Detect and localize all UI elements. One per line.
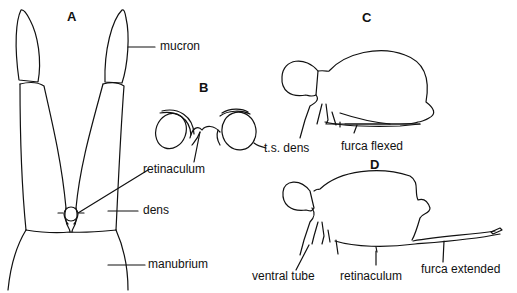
label-retinaculum-d: retinaculum: [340, 270, 402, 282]
springtail-furca-diagram: A B C D mucron retinaculum t.s. dens den…: [0, 0, 517, 293]
label-ts-dens: t.s. dens: [264, 142, 309, 154]
label-furca-flexed: furca flexed: [341, 140, 403, 152]
panel-c-springtail-flexed-drawing: [282, 51, 434, 138]
panel-a-furca-drawing: [8, 10, 128, 290]
label-retinaculum-b: retinaculum: [143, 163, 205, 175]
panel-label-c: C: [362, 11, 371, 24]
retinaculum-a-leader-line: [78, 170, 148, 213]
panel-d-springtail-extended-drawing: [283, 171, 502, 255]
panel-label-b: B: [199, 81, 208, 94]
label-dens: dens: [143, 204, 169, 216]
label-manubrium: manubrium: [148, 258, 208, 270]
label-mucron: mucron: [160, 40, 200, 52]
panel-b-transverse-section-drawing: [151, 109, 266, 153]
label-furca-extended: furca extended: [421, 263, 500, 275]
label-ventral-tube: ventral tube: [252, 270, 315, 282]
retinaculum-b-leader-line: [194, 132, 200, 162]
panel-label-d: D: [370, 158, 379, 171]
ventral-tube-leader-line: [296, 245, 309, 270]
diagram-drawing: [0, 0, 517, 293]
panel-label-a: A: [67, 10, 76, 23]
furca-extended-leader-line: [443, 241, 444, 262]
